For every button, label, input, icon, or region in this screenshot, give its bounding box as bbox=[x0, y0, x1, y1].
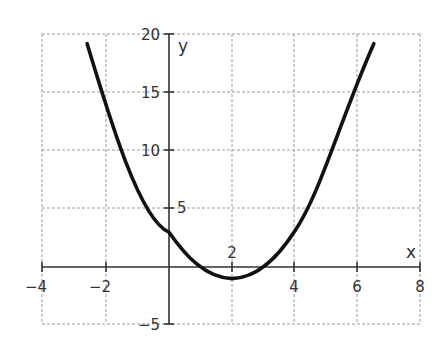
x-tick-label: 6 bbox=[352, 278, 362, 296]
y-tick-label: 20 bbox=[141, 26, 160, 44]
parabola-chart: −4 −2 2 4 6 8 20 15 10 5 −5 y x bbox=[0, 0, 448, 340]
x-tick-labels: −4 −2 2 4 6 8 bbox=[25, 244, 425, 296]
y-tick-labels: 20 15 10 5 −5 bbox=[138, 26, 187, 334]
y-tick-label: 15 bbox=[141, 84, 160, 102]
x-tick-label: 4 bbox=[289, 278, 299, 296]
x-axis-label: x bbox=[406, 242, 416, 262]
y-tick-label: 10 bbox=[141, 142, 160, 160]
y-tick-label: −5 bbox=[138, 316, 160, 334]
y-axis-label: y bbox=[178, 36, 188, 56]
x-tick-label: 2 bbox=[227, 244, 237, 262]
x-tick-label: 8 bbox=[415, 278, 425, 296]
y-tick-label: 5 bbox=[177, 199, 187, 217]
x-tick-label: −2 bbox=[89, 278, 111, 296]
x-tick-label: −4 bbox=[25, 278, 47, 296]
